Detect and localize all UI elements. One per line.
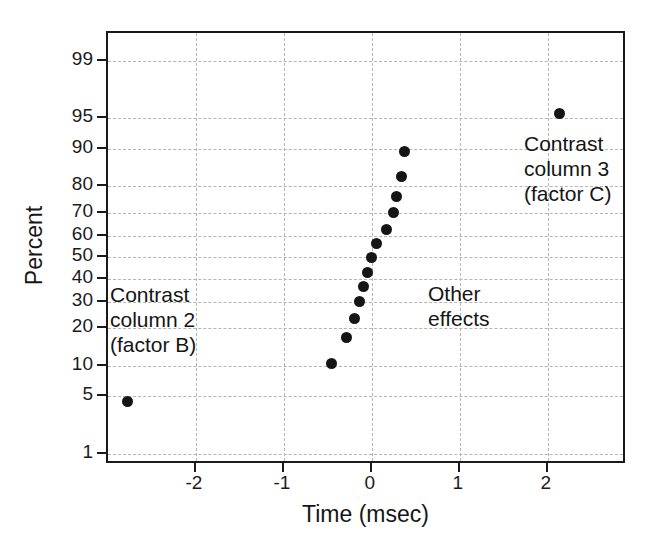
gridline-horizontal [108, 61, 623, 62]
y-axis-tick [97, 326, 106, 328]
data-point [366, 252, 377, 263]
y-axis-tick [97, 147, 106, 149]
y-axis-tick [97, 452, 106, 454]
normal-probability-plot: 999590807060504030201051-2-1012 Time (ms… [0, 0, 650, 547]
gridline-horizontal [108, 236, 623, 237]
gridline-vertical [548, 33, 549, 461]
annotation-contrast-column-3: Contrast column 3 (factor C) [524, 131, 612, 206]
y-axis-tick [97, 394, 106, 396]
y-axis-tick-label: 50 [41, 245, 93, 264]
y-axis-title: Percent [21, 166, 48, 326]
x-axis-title: Time (msec) [106, 501, 625, 528]
x-axis-tick [282, 463, 284, 472]
x-axis-tick-label: -2 [174, 473, 214, 493]
data-point [371, 238, 382, 249]
y-axis-tick-label: 1 [41, 442, 93, 461]
gridline-vertical [196, 33, 197, 461]
data-point [396, 171, 407, 182]
y-axis-tick-label: 90 [41, 137, 93, 156]
y-axis-tick-label: 80 [41, 174, 93, 193]
data-point [391, 191, 402, 202]
x-axis-tick [194, 463, 196, 472]
y-axis-tick [97, 59, 106, 61]
x-axis-tick-label: 0 [350, 473, 390, 493]
x-axis-tick-label: -1 [262, 473, 302, 493]
gridline-vertical [460, 33, 461, 461]
data-point [554, 108, 565, 119]
gridline-horizontal [108, 454, 623, 455]
annotation-other-effects: Other effects [428, 281, 489, 331]
gridline-horizontal [108, 366, 623, 367]
x-axis-tick [546, 463, 548, 472]
y-axis-tick [97, 234, 106, 236]
plot-frame [106, 31, 625, 463]
data-point [326, 358, 337, 369]
annotation-contrast-column-2: Contrast column 2 (factor B) [110, 282, 196, 357]
data-point [354, 296, 365, 307]
y-axis-tick [97, 184, 106, 186]
data-point [399, 146, 410, 157]
y-axis-tick [97, 300, 106, 302]
x-axis-tick-label: 2 [526, 473, 566, 493]
y-axis-tick [97, 364, 106, 366]
gridline-horizontal [108, 213, 623, 214]
gridline-horizontal [108, 396, 623, 397]
y-axis-tick-label: 10 [41, 354, 93, 373]
y-axis-tick-label: 95 [41, 106, 93, 125]
x-axis-tick [458, 463, 460, 472]
data-point [358, 281, 369, 292]
data-point [388, 207, 399, 218]
x-axis-tick [370, 463, 372, 472]
y-axis-tick-label: 40 [41, 267, 93, 286]
data-point [349, 313, 360, 324]
y-axis-tick [97, 116, 106, 118]
y-axis-tick [97, 277, 106, 279]
data-point [381, 224, 392, 235]
data-point [362, 267, 373, 278]
gridline-horizontal [108, 279, 623, 280]
data-point [122, 396, 133, 407]
gridline-horizontal [108, 118, 623, 119]
data-point [341, 332, 352, 343]
y-axis-tick-label: 20 [41, 316, 93, 335]
y-axis-tick-label: 70 [41, 201, 93, 220]
plot-area [108, 33, 623, 461]
gridline-vertical [284, 33, 285, 461]
y-axis-tick-label: 30 [41, 290, 93, 309]
y-axis-tick-label: 5 [41, 384, 93, 403]
y-axis-tick [97, 255, 106, 257]
x-axis-tick-label: 1 [438, 473, 478, 493]
y-axis-tick [97, 211, 106, 213]
y-axis-tick-label: 99 [41, 49, 93, 68]
y-axis-tick-label: 60 [41, 224, 93, 243]
